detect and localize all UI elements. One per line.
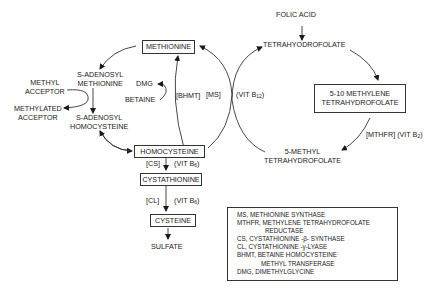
legend-item-bhmt: BHMT, BETAINE HOMOCYSTEINE [237,251,397,259]
methyl-acceptor-label: METHYL ACCEPTOR [25,79,65,96]
methylated-acceptor-label: METHYLATED ACCEPTOR [14,105,62,122]
folic-acid-label: FOLIC ACID [276,11,316,20]
sulfate-label: SULFATE [151,243,182,252]
cystathionine-box: CYSTATHIONINE [140,173,202,186]
sam-label: S-ADENOSYL METHIONINE [77,71,123,88]
sah-label: S-ADENOSYL HOMOCYSTEINE [70,114,128,131]
ms-enzyme-label: [MS] [206,91,221,100]
methylene-thf-box: 5-10 METHYLENE TETRAHYDROFOLATE [314,84,406,113]
ms-cofactor-label: (VIT B12) [236,91,264,100]
cs-cofactor-label: (VIT B6) [174,160,199,169]
mthfr-cofactor-label: [MTHFR] (VIT B2) [366,131,423,140]
cs-enzyme-label: [CS] [146,160,160,169]
abbreviation-legend: MS, METHIONINE SYNTHASE MTHFR, METHYLENE… [227,207,398,281]
methionine-box: METHIONINE [142,40,195,54]
homocysteine-box: HOMOCYSTEINE [134,145,205,158]
cl-enzyme-label: [CL] [146,197,159,206]
legend-item-ms: MS, METHIONINE SYNTHASE [237,211,397,219]
dmg-label: DMG [136,80,153,89]
legend-item-mthfr-cont: REDUCTASE [237,227,397,235]
cysteine-box: CYSTEINE [150,214,196,227]
bhmt-enzyme-label: [BHMT] [176,92,200,101]
methylene-thf-line2: TETRAHYDROFOLATE [315,99,405,108]
legend-item-mthfr: MTHFR, METHYLENE TETRAHYDROFOLATE [237,219,397,227]
methyl-thf-label: 5-METHYL TETRAHYDROFOLATE [264,148,341,165]
legend-item-bhmt-cont: METHYL TRANSFERASE [237,260,397,268]
betaine-label: BETAINE [125,96,155,105]
tetrahydrofolate-label: TETRAHYODROFOLATE [263,41,346,50]
legend-item-cs: CS, CYSTATHIONINE -β- SYNTHASE [237,235,397,243]
mthfr-enzyme: [MTHFR] [366,130,395,139]
legend-item-dmg: DMG, DIMETHYLGLYCINE [237,268,397,276]
legend-item-cl: CL, CYSTATHIONINE -γ-LYASE [237,243,397,251]
cl-cofactor-label: (VIT B6) [174,197,199,206]
